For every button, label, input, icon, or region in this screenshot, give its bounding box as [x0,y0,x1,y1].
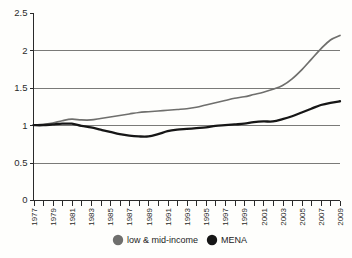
gridlines [34,51,341,163]
x-tick-label: 1999 [240,207,249,225]
x-tick-label: 1977 [30,207,39,225]
x-tick-label: 1991 [164,207,173,225]
x-tick-label: 1981 [68,207,77,225]
chart-legend: low & mid-incomeMENA [113,235,247,245]
y-tick-label: 2 [22,45,27,56]
x-tick-label: 1983 [87,207,96,225]
y-tick-label: 0.5 [14,157,27,168]
x-tick-label: 2007 [317,207,326,225]
y-axis-tick-labels: 2.521.510.50 [14,7,27,205]
x-tick-label: 2009 [336,207,345,225]
legend-swatch-mena [207,235,217,245]
x-axis-tickmarks [35,201,341,206]
x-tick-label: 1979 [49,207,58,225]
series-line-low-mid-income [34,35,341,125]
series-line-mena [34,101,341,136]
y-tick-label: 2.5 [14,7,27,18]
x-tick-label: 1989 [145,207,154,225]
legend-label-mena: MENA [221,235,247,245]
chart-canvas: 2.521.510.50 197719791981198319851987198… [0,0,352,258]
x-tick-label: 1985 [106,207,115,225]
x-tick-label: 2001 [260,207,269,225]
x-tick-label: 1997 [221,207,230,225]
x-axis-tick-labels: 1977197919811983198519871989199119931995… [30,207,346,225]
x-tick-label: 1995 [202,207,211,225]
legend-swatch-low-mid-income [113,235,123,245]
x-tick-label: 2003 [279,207,288,225]
x-tick-label: 2005 [298,207,307,225]
y-tick-label: 1.5 [14,82,27,93]
legend-label-low-mid-income: low & mid-income [127,235,198,245]
chart-axes [30,13,340,201]
y-tick-label: 1 [22,120,27,131]
x-tick-label: 1993 [183,207,192,225]
line-chart: 2.521.510.50 197719791981198319851987198… [0,0,352,258]
y-tick-label: 0 [22,194,27,205]
x-tick-label: 1987 [125,207,134,225]
